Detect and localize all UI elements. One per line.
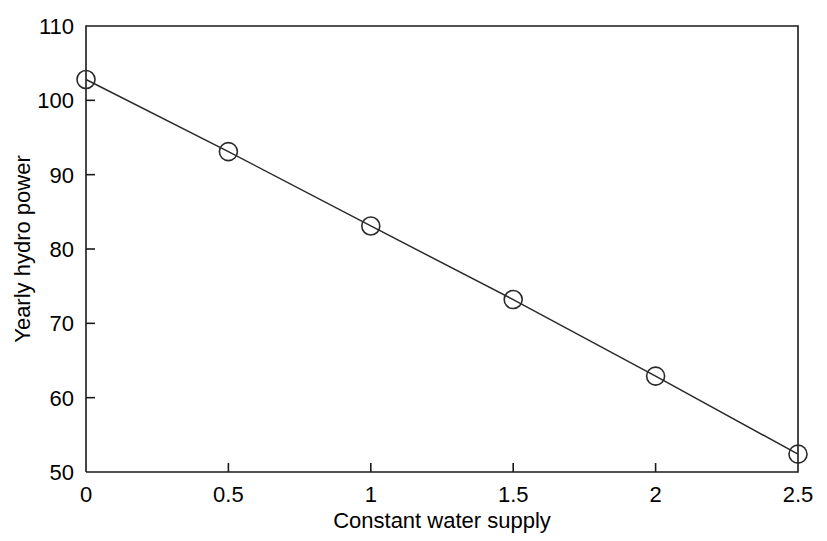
y-tick-label: 80 (50, 237, 74, 262)
y-tick-label: 110 (39, 14, 74, 39)
y-tick-label: 60 (50, 386, 74, 411)
x-tick-label: 1.5 (498, 482, 529, 507)
y-axis-title: Yearly hydro power (10, 155, 35, 343)
series-line (86, 80, 798, 455)
y-tick-label: 90 (50, 163, 74, 188)
x-tick-label: 2 (649, 482, 661, 507)
axis-box (86, 26, 798, 472)
x-tick-label: 2.5 (783, 482, 814, 507)
y-tick-label: 50 (50, 460, 74, 485)
x-axis-title: Constant water supply (333, 508, 551, 533)
plot-frame (86, 26, 798, 472)
x-tick-label: 1 (365, 482, 377, 507)
x-tick-label: 0 (80, 482, 92, 507)
y-tick-label: 100 (37, 88, 74, 113)
series-markers (77, 71, 807, 464)
x-axis-ticks: 00.511.522.5 (80, 463, 813, 507)
x-tick-label: 0.5 (213, 482, 244, 507)
line-chart: 5060708090100110 00.511.522.5 Constant w… (0, 0, 827, 541)
y-tick-label: 70 (50, 311, 74, 336)
data-series (77, 71, 807, 464)
chart-figure: 5060708090100110 00.511.522.5 Constant w… (0, 0, 827, 541)
